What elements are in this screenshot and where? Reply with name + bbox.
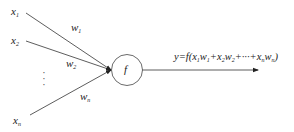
input-label-x2: x2 (11, 35, 19, 47)
output-formula: y=f(x1w1+x2w2+···+xnwn) (174, 52, 278, 63)
weight-label-w2: w2 (66, 58, 76, 70)
vertical-ellipsis: ··· (42, 70, 46, 88)
input-label-x1: x1 (11, 6, 19, 18)
activation-function-label: f (124, 64, 127, 75)
input-label-xn: xn (13, 115, 21, 127)
weight-label-wn: wn (80, 91, 90, 103)
weight-label-w1: w1 (71, 22, 81, 34)
neuron-diagram (0, 0, 294, 132)
